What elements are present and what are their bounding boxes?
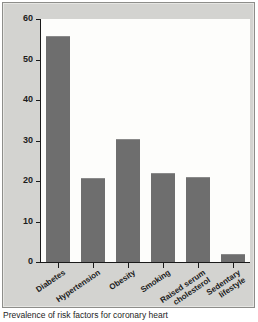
y-tick-label: 20 bbox=[23, 175, 33, 185]
figure: Prevalence (%) 0102030405060 DiabetesHyp… bbox=[0, 0, 258, 322]
y-tick: 60 bbox=[3, 19, 40, 20]
y-tick-mark bbox=[36, 262, 40, 263]
y-tick-mark bbox=[36, 19, 40, 20]
bar bbox=[151, 173, 175, 262]
bar bbox=[221, 254, 245, 263]
figure-caption: Prevalence of risk factors for coronary … bbox=[3, 310, 255, 321]
chart-frame: Prevalence (%) 0102030405060 DiabetesHyp… bbox=[2, 2, 255, 308]
y-tick-mark bbox=[36, 141, 40, 142]
y-tick: 40 bbox=[3, 100, 40, 101]
y-tick: 0 bbox=[3, 262, 40, 263]
x-axis-labels: DiabetesHypertensionObesitySmokingRaised… bbox=[3, 265, 256, 311]
y-tick-mark bbox=[36, 222, 40, 223]
y-tick: 30 bbox=[3, 141, 40, 142]
y-tick-label: 60 bbox=[23, 13, 33, 23]
y-tick-mark bbox=[36, 181, 40, 182]
y-tick-label: 40 bbox=[23, 94, 33, 104]
bar bbox=[81, 178, 105, 262]
y-tick-mark bbox=[36, 60, 40, 61]
y-tick-label: 30 bbox=[23, 135, 33, 145]
y-tick-mark bbox=[36, 100, 40, 101]
y-tick: 50 bbox=[3, 60, 40, 61]
bar bbox=[186, 177, 210, 262]
y-tick: 20 bbox=[3, 181, 40, 182]
y-tick: 10 bbox=[3, 222, 40, 223]
y-tick-label: 50 bbox=[23, 54, 33, 64]
bar-series bbox=[41, 19, 250, 262]
bar bbox=[46, 36, 70, 262]
y-tick-label: 10 bbox=[23, 216, 33, 226]
bar bbox=[116, 139, 140, 262]
